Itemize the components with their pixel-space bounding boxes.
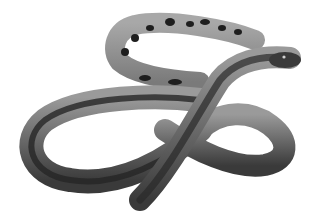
snake-illustration xyxy=(0,0,319,224)
snake-eye xyxy=(282,55,285,58)
snake-head xyxy=(269,52,301,68)
snake-drawing xyxy=(0,0,319,224)
